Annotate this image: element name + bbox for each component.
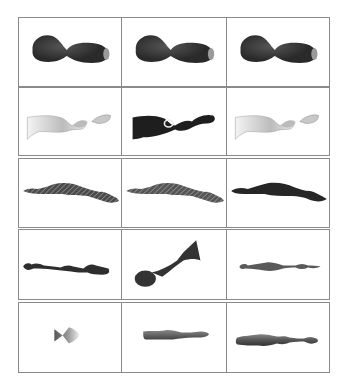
thin-beaded-rod-render [227, 230, 331, 301]
textured-long-body-render [19, 159, 123, 229]
shape-grid [18, 17, 330, 373]
dark-long-body-render [227, 159, 331, 229]
shape-cell-dark-bowtie [121, 17, 227, 87]
shape-cell-light-bell-segments [18, 87, 122, 156]
shape-cell-club-cone [121, 229, 227, 300]
shape-cell-gray-beaded-cylinder [226, 302, 330, 373]
shape-cell-dark-long-body [226, 158, 330, 228]
shape-cell-dark-bowtie [226, 17, 330, 87]
shape-cell-thin-beaded-rod [226, 229, 330, 300]
shape-cell-dark-bell-segments [121, 87, 227, 156]
shape-cell-textured-long-body [121, 158, 227, 228]
dark-bowtie-render [227, 18, 331, 88]
grid-row-4 [18, 229, 330, 300]
dark-bowtie-render [122, 18, 228, 88]
gray-cylinder-rod-render [122, 303, 228, 374]
textured-long-body-render [122, 159, 228, 229]
club-cone-render [122, 230, 228, 301]
shape-cell-segmented-rod [18, 229, 122, 300]
grid-row-2 [18, 87, 330, 156]
grid-row-1 [18, 17, 330, 87]
shape-cell-gray-cylinder-rod [121, 302, 227, 373]
shape-cell-dark-bowtie [18, 17, 122, 87]
dark-bell-segments-render [122, 88, 228, 157]
dark-bowtie-render [19, 18, 123, 88]
gray-beaded-cylinder-render [227, 303, 331, 374]
small-spool-render [19, 303, 123, 374]
grid-row-3 [18, 158, 330, 228]
shape-cell-small-spool [18, 302, 122, 373]
grid-row-5 [18, 302, 330, 373]
light-bell-segments-render [19, 88, 123, 157]
light-bell-segments-render [227, 88, 331, 157]
shape-cell-light-bell-segments [226, 87, 330, 156]
shape-cell-textured-long-body [18, 158, 122, 228]
segmented-rod-render [19, 230, 123, 301]
